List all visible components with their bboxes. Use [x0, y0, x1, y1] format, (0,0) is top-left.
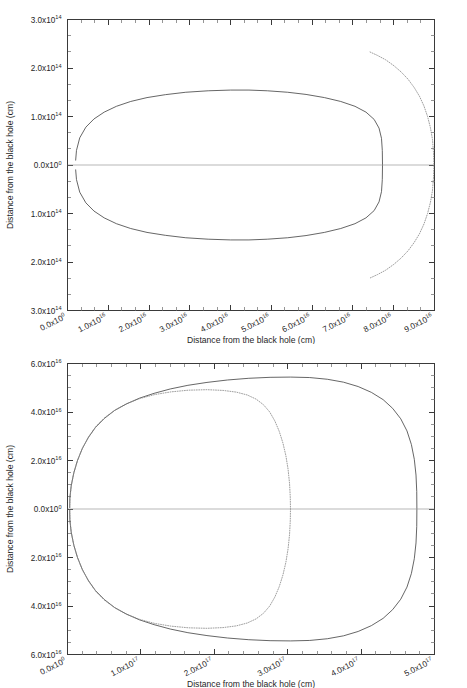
x-tick-label-exponent: 0: [60, 311, 66, 318]
x-tick-label-text: 2.0x1016: [117, 311, 149, 334]
x-tick-label-text: 4.0x1017: [329, 655, 361, 678]
chart-bottom-svg: 0.0x1001.0x10172.0x10173.0x10174.0x10175…: [0, 344, 467, 688]
y-tick-label-exponent: 14: [55, 63, 61, 69]
y-tick-label: 6.0x1016: [31, 358, 62, 368]
y-tick-label-exponent: 14: [55, 305, 61, 311]
x-tick-label-exponent: 16: [180, 311, 188, 319]
y-tick-label: 1.0x1014: [31, 111, 62, 121]
x-tick-label: 7.0x1016: [321, 311, 353, 334]
curves-group: [68, 52, 435, 278]
y-tick-label: 2.0x1014: [31, 257, 62, 267]
x-tick-label-text: 9.0x1016: [402, 311, 434, 334]
y-tick-label: 0.0x100: [34, 160, 62, 170]
x-tick-label-exponent: 16: [383, 311, 391, 319]
chart-top-svg: 0.0x1001.0x10162.0x10163.0x10164.0x10165…: [0, 0, 467, 344]
x-axis-title: Distance from the black hole (cm): [187, 335, 315, 345]
x-tick-label-text: 1.0x1016: [76, 311, 108, 334]
x-tick-label-text: 4.0x1016: [198, 311, 230, 334]
y-tick-label-exponent: 16: [55, 649, 61, 655]
x-tick-label: 2.0x1017: [182, 655, 214, 678]
x-tick-label-exponent: 16: [98, 311, 106, 319]
chart-top-plot-group: 0.0x1001.0x10162.0x10163.0x10164.0x10165…: [5, 14, 435, 344]
y-tick-label-exponent: 16: [55, 358, 61, 364]
y-tick-label: 4.0x1016: [31, 601, 62, 611]
y-tick-label-exponent: 16: [55, 552, 61, 558]
y-tick-label: 2.0x1016: [31, 455, 62, 465]
y-tick-label: 0.0x100: [34, 504, 62, 514]
x-tick-label-exponent: 17: [351, 655, 359, 663]
x-tick-label-exponent: 16: [261, 311, 269, 319]
x-tick-label-exponent: 16: [139, 311, 147, 319]
x-tick-label-exponent: 17: [277, 655, 285, 663]
y-tick-label: 2.0x1016: [31, 552, 62, 562]
x-tick-label-text: 5.0x1016: [239, 311, 271, 334]
x-tick-label-text: 6.0x1016: [280, 311, 312, 334]
y-tick-label: 6.0x1016: [31, 649, 62, 659]
figure-page: 0.0x1001.0x10162.0x10163.0x10164.0x10165…: [0, 0, 467, 688]
x-tick-label-exponent: 16: [343, 311, 351, 319]
y-tick-label: 1.0x1014: [31, 208, 62, 218]
x-tick-label-exponent: 17: [131, 655, 139, 663]
curves-group: [68, 377, 435, 641]
x-tick-label: 3.0x1017: [256, 655, 288, 678]
x-tick-label: 5.0x1017: [402, 655, 434, 678]
x-tick-label-text: 5.0x1017: [402, 655, 434, 678]
x-tick-label: 4.0x1016: [198, 311, 230, 334]
x-tick-label-text: 3.0x1017: [256, 655, 288, 678]
y-tick-label: 4.0x1016: [31, 407, 62, 417]
y-axis-title: Distance from the black hole (cm): [5, 101, 15, 229]
y-tick-label: 3.0x1014: [31, 14, 62, 24]
x-tick-label-text: 7.0x1016: [321, 311, 353, 334]
x-tick-label: 9.0x1016: [402, 311, 434, 334]
x-tick-label: 6.0x1016: [280, 311, 312, 334]
x-tick-label-exponent: 16: [302, 311, 310, 319]
x-tick-label-exponent: 16: [424, 311, 432, 319]
x-tick-label-exponent: 16: [220, 311, 228, 319]
y-axis-title: Distance from the black hole (cm): [5, 445, 15, 573]
y-tick-label-exponent: 14: [55, 257, 61, 263]
x-tick-label: 5.0x1016: [239, 311, 271, 334]
x-tick-label: 8.0x1016: [362, 311, 394, 334]
x-tick-label-text: 1.0x1017: [109, 655, 141, 678]
y-tick-label-exponent: 14: [55, 14, 61, 20]
x-tick-label-exponent: 17: [424, 655, 432, 663]
y-tick-label: 2.0x1014: [31, 63, 62, 73]
y-tick-label-exponent: 16: [55, 407, 61, 413]
x-tick-label-exponent: 17: [204, 655, 212, 663]
y-tick-label-exponent: 14: [55, 208, 61, 214]
x-tick-label: 3.0x1016: [158, 311, 190, 334]
chart-bottom-plot-group: 0.0x1001.0x10172.0x10173.0x10174.0x10175…: [5, 358, 435, 688]
x-tick-label: 1.0x1017: [109, 655, 141, 678]
y-tick-label-exponent: 16: [55, 601, 61, 607]
x-tick-label-text: 3.0x1016: [158, 311, 190, 334]
chart-bottom: 0.0x1001.0x10172.0x10173.0x10174.0x10175…: [0, 344, 467, 688]
y-tick-label-exponent: 14: [55, 111, 61, 117]
chart-top: 0.0x1001.0x10162.0x10163.0x10164.0x10165…: [0, 0, 467, 344]
x-axis-title: Distance from the black hole (cm): [187, 679, 315, 688]
x-tick-label-exponent: 0: [60, 655, 66, 662]
y-tick-label-exponent: 0: [58, 160, 61, 166]
y-tick-label-exponent: 0: [58, 504, 61, 510]
x-tick-label-text: 2.0x1017: [182, 655, 214, 678]
y-tick-label: 3.0x1014: [31, 305, 62, 315]
x-tick-label-text: 8.0x1016: [362, 311, 394, 334]
x-tick-label: 4.0x1017: [329, 655, 361, 678]
x-tick-label: 2.0x1016: [117, 311, 149, 334]
y-tick-label-exponent: 16: [55, 455, 61, 461]
x-tick-label: 1.0x1016: [76, 311, 108, 334]
